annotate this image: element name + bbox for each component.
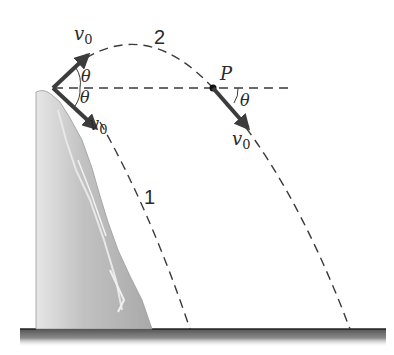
diagram-svg: v0 θ θ v0 2 P θ v0 1 <box>0 0 394 355</box>
angle-arc-up <box>76 68 80 88</box>
ground <box>20 329 386 347</box>
projectile-diagram: v0 θ θ v0 2 P θ v0 1 <box>0 0 394 355</box>
label-theta-up: θ <box>81 67 91 86</box>
label-path-1: 1 <box>144 186 155 208</box>
label-point-p: P <box>219 63 233 84</box>
label-path-2: 2 <box>154 26 165 48</box>
label-theta-p: θ <box>240 91 250 110</box>
label-v0-p: v0 <box>232 128 250 152</box>
angle-arc-p <box>234 88 238 103</box>
label-v0-up: v0 <box>74 23 92 47</box>
label-v0-down: v0 <box>89 113 107 137</box>
label-theta-down: θ <box>80 88 90 107</box>
